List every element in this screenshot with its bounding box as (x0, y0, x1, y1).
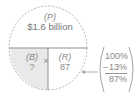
multiply-operator: × (41, 57, 51, 66)
calc-result: 87% (105, 74, 127, 85)
base-label-b: (B) (22, 53, 42, 62)
calc-line-100: 100% (105, 51, 127, 62)
minus-sign: – (103, 62, 108, 73)
arrow-head-icon (81, 70, 85, 73)
percentage-circle-diagram: (P) $1.6 billion (B) ? × (R) 87 100% – 1… (0, 0, 136, 97)
calc-line-subtract: – 13% (105, 62, 127, 74)
calc-line-13: 13% (109, 62, 127, 72)
right-paren-icon (129, 47, 133, 92)
rate-value-r: 87 (54, 63, 76, 72)
top-value-p: $1.6 billion (18, 22, 82, 31)
rate-label-r: (R) (54, 53, 76, 62)
base-value-b: ? (22, 63, 42, 72)
rate-calculation: 100% – 13% 87% (105, 51, 127, 85)
